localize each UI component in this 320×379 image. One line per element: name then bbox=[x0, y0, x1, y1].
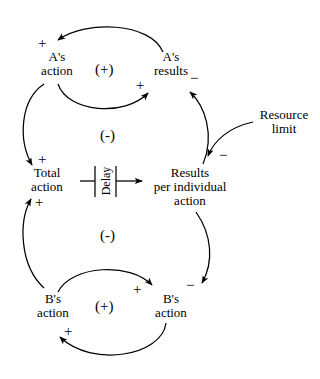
node-results-line-3: action bbox=[140, 194, 240, 208]
polarity-to-total-action: + bbox=[38, 152, 46, 167]
node-bs-action-right-line-2: action bbox=[138, 306, 204, 320]
polarity-to-as-results-limit: − bbox=[190, 71, 198, 86]
polarity-to-bs-action-right: + bbox=[133, 282, 141, 297]
link-resource-limit-to-results bbox=[208, 122, 253, 156]
causal-loop-diagram: A's action A's results Total action Resu… bbox=[0, 0, 320, 379]
node-total-action-line-2: action bbox=[14, 180, 80, 194]
link-as-results-to-as-action bbox=[58, 27, 163, 52]
loop-mark-lower-balancing: (-) bbox=[100, 228, 115, 243]
loop-mark-lower-reinforcing: (+) bbox=[95, 299, 113, 314]
node-resource-limit-line-1: Resource bbox=[248, 108, 320, 122]
link-bs-action-left-to-total-action bbox=[23, 199, 44, 288]
polarity-to-as-action: + bbox=[38, 36, 46, 51]
link-bs-action-right-to-bs-action-left bbox=[60, 323, 166, 355]
node-as-results-line-1: A's bbox=[140, 50, 202, 64]
delay-label: Delay bbox=[100, 163, 112, 199]
link-as-action-to-as-results bbox=[58, 84, 148, 109]
node-as-action-line-2: action bbox=[26, 64, 88, 78]
polarity-to-total-action-from-b: + bbox=[35, 195, 43, 210]
loop-mark-upper-balancing: (-) bbox=[100, 128, 115, 143]
loop-mark-upper-reinforcing: (+) bbox=[95, 62, 113, 77]
node-results-line-2: per individual bbox=[140, 180, 240, 194]
node-resource-limit[interactable]: Resource limit bbox=[248, 108, 320, 136]
node-total-action[interactable]: Total action bbox=[14, 166, 80, 194]
link-results-to-as-results bbox=[190, 92, 208, 164]
link-results-to-bs-action-right bbox=[196, 212, 210, 283]
node-results-line-1: Results bbox=[140, 166, 240, 180]
polarity-to-bs-action-left: + bbox=[64, 324, 72, 339]
polarity-to-as-results: + bbox=[136, 78, 144, 93]
node-bs-action-left-line-2: action bbox=[20, 306, 86, 320]
node-bs-action-right[interactable]: B's action bbox=[138, 292, 204, 320]
node-as-action[interactable]: A's action bbox=[26, 50, 88, 78]
node-resource-limit-line-2: limit bbox=[248, 122, 320, 136]
node-bs-action-left-line-1: B's bbox=[20, 292, 86, 306]
node-results-per-individual-action[interactable]: Results per individual action bbox=[140, 166, 240, 208]
node-total-action-line-1: Total bbox=[14, 166, 80, 180]
node-bs-action-left[interactable]: B's action bbox=[20, 292, 86, 320]
node-as-action-line-1: A's bbox=[26, 50, 88, 64]
polarity-to-bs-action-right-limit: − bbox=[186, 278, 194, 293]
polarity-to-results-per-individual: − bbox=[219, 148, 227, 163]
node-bs-action-right-line-1: B's bbox=[138, 292, 204, 306]
